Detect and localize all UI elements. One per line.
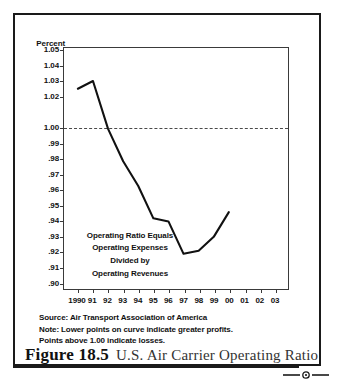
- x-axis-tick-label: 00: [225, 296, 234, 305]
- x-axis-tick-label: 1990: [68, 296, 85, 305]
- figure-number: Figure 18.5: [25, 345, 109, 364]
- y-axis-tick-label: .93: [17, 231, 59, 240]
- x-axis-tick-mark: [276, 289, 277, 293]
- x-axis-tick-label: 94: [134, 296, 143, 305]
- y-axis-tick-label: 1.03: [17, 76, 59, 85]
- annotation-line-3: Divided by: [72, 255, 188, 268]
- figure-container: Percent 1.051.041.031.021.00.99.98.97.96…: [0, 0, 337, 385]
- x-axis-tick-mark: [185, 289, 186, 293]
- x-axis-tick-label: 98: [194, 296, 203, 305]
- x-axis-tick-mark: [215, 289, 216, 293]
- y-axis-tick-label: .96: [17, 185, 59, 194]
- y-axis-tick-label: .95: [17, 200, 59, 209]
- x-axis-tick-mark: [78, 289, 79, 293]
- y-axis-tick-label: 1.02: [17, 91, 59, 100]
- chart-area: Percent 1.051.041.031.021.00.99.98.97.96…: [15, 15, 323, 368]
- figure-caption: Figure 18.5U.S. Air Carrier Operating Ra…: [25, 345, 325, 365]
- x-axis-tick-mark: [169, 289, 170, 293]
- plot-area: Operating Ratio Equals Operating Expense…: [63, 47, 289, 290]
- x-axis-tick-mark: [108, 289, 109, 293]
- y-axis-tick-label: 1.00: [17, 122, 59, 131]
- note-line-1: Note: Lower points on curve indicate gre…: [39, 324, 309, 336]
- x-axis-tick-mark: [139, 289, 140, 293]
- annotation-line-1: Operating Ratio Equals: [72, 230, 188, 243]
- chart-annotation: Operating Ratio Equals Operating Expense…: [72, 230, 188, 280]
- annotation-line-2: Operating Expenses: [72, 242, 188, 255]
- x-axis-tick-label: 97: [179, 296, 188, 305]
- x-axis-tick-mark: [93, 289, 94, 293]
- x-axis-tick-mark: [200, 289, 201, 293]
- x-axis-tick-mark: [124, 289, 125, 293]
- y-axis-tick-label: .97: [17, 169, 59, 178]
- x-axis-tick-mark: [261, 289, 262, 293]
- x-axis-tick-label: 92: [103, 296, 112, 305]
- x-axis-tick-label: 99: [210, 296, 219, 305]
- y-axis-tick-label: .98: [17, 154, 59, 163]
- x-axis-tick-labels: 199091929394959697989900010203: [63, 296, 289, 310]
- x-axis-tick-label: 01: [240, 296, 249, 305]
- caption-divider: [13, 366, 299, 368]
- figure-frame: Percent 1.051.041.031.021.00.99.98.97.96…: [13, 13, 321, 366]
- y-axis-tick-label: .91: [17, 262, 59, 271]
- y-axis-tick-label: .90: [17, 278, 59, 287]
- source-line: Source: Air Transport Association of Ame…: [39, 312, 309, 324]
- x-axis-tick-label: 93: [118, 296, 127, 305]
- source-and-notes: Source: Air Transport Association of Ame…: [39, 312, 309, 347]
- page-ornament-icon: [283, 371, 329, 379]
- y-axis-tick-label: .92: [17, 247, 59, 256]
- x-axis-tick-mark: [154, 289, 155, 293]
- y-axis-tick-label: 1.04: [17, 60, 59, 69]
- x-axis-tick-label: 96: [164, 296, 173, 305]
- x-axis-tick-label: 91: [88, 296, 97, 305]
- x-axis-tick-mark: [230, 289, 231, 293]
- x-axis-tick-label: 02: [255, 296, 264, 305]
- figure-title: U.S. Air Carrier Operating Ratio: [116, 347, 318, 363]
- y-axis-tick-label: .99: [17, 138, 59, 147]
- x-axis-tick-label: 03: [271, 296, 280, 305]
- y-axis-tick-label: 1.05: [17, 45, 59, 54]
- x-axis-tick-mark: [246, 289, 247, 293]
- y-axis-tick-label: .94: [17, 216, 59, 225]
- x-axis-tick-label: 95: [149, 296, 158, 305]
- annotation-line-4: Operating Revenues: [72, 268, 188, 281]
